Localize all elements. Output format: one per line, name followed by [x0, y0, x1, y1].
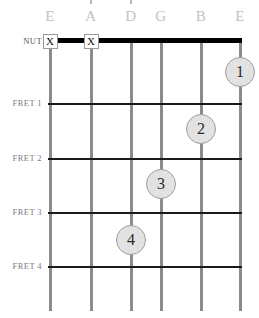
fret-line-fret-3 — [48, 212, 242, 214]
finger-dot-4[interactable]: 4 — [116, 225, 146, 255]
top-crop-mark-2 — [130, 0, 132, 4]
top-crop-mark-1 — [90, 0, 92, 4]
finger-dot-1[interactable]: 1 — [225, 57, 255, 87]
string-name-3: D — [119, 7, 143, 25]
string-line-1 — [49, 38, 52, 311]
string-name-5: B — [189, 7, 213, 25]
string-line-5 — [200, 38, 203, 311]
fret-line-fret-4 — [48, 266, 242, 268]
fret-line-fret-2 — [48, 158, 242, 160]
string-name-4: G — [149, 7, 173, 25]
finger-dot-2[interactable]: 2 — [186, 114, 216, 144]
row-label-fret-2: FRET 2 — [0, 153, 42, 163]
fret-line-fret-1 — [48, 103, 242, 105]
mute-marker-E[interactable]: X — [43, 34, 58, 49]
row-label-fret-3: FRET 3 — [0, 207, 42, 217]
row-label-fret-4: FRET 4 — [0, 261, 42, 271]
row-label-nut: NUT — [0, 36, 42, 46]
string-line-3 — [130, 38, 133, 311]
guitar-chord-diagram: EADGBENUTFRET 1FRET 2FRET 3FRET 4XX1234 — [0, 0, 259, 318]
string-name-1: E — [38, 7, 62, 25]
string-name-2: A — [79, 7, 103, 25]
mute-marker-A[interactable]: X — [84, 34, 99, 49]
finger-dot-3[interactable]: 3 — [146, 169, 176, 199]
string-name-6: E — [228, 7, 252, 25]
string-line-2 — [90, 38, 93, 311]
fret-line-nut — [48, 38, 242, 43]
row-label-fret-1: FRET 1 — [0, 98, 42, 108]
